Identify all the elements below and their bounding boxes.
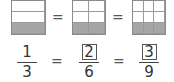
bar-cell-shaded [154,23,165,34]
bar-cell-shaded [12,23,45,34]
bar-cell [89,12,105,23]
equals-sign: = [113,54,125,68]
answer-box: 3 [142,44,157,60]
denominator: 9 [139,64,159,81]
bar-cell-shaded [73,23,89,34]
bar-cell-shaded [89,23,105,34]
fraction-one-third: 1 3 [17,44,37,81]
bar-cell [73,1,89,12]
fraction-bar-ninths [132,0,166,35]
fraction-bar-thirds [11,0,46,35]
answer-box: 2 [82,44,97,60]
bar-cell [144,12,155,23]
bar-cell [12,1,45,12]
bar-cell [133,1,144,12]
equals-sign: = [52,10,64,24]
fraction-three-ninths: 3 9 [139,44,159,81]
bar-cell [89,1,105,12]
bar-cell-shaded [144,23,155,34]
fraction-bar-sixths [72,0,106,35]
bar-cell-shaded [133,23,144,34]
bar-cell [154,12,165,23]
bar-cell [73,12,89,23]
numerator: 1 [17,44,37,61]
bar-cell [133,12,144,23]
equals-sign: = [112,10,124,24]
fraction-two-sixths: 2 6 [79,44,99,81]
denominator: 6 [79,64,99,81]
denominator: 3 [17,64,37,81]
bar-cell [144,1,155,12]
bar-cell [12,12,45,23]
equals-sign: = [51,54,63,68]
bar-cell [154,1,165,12]
